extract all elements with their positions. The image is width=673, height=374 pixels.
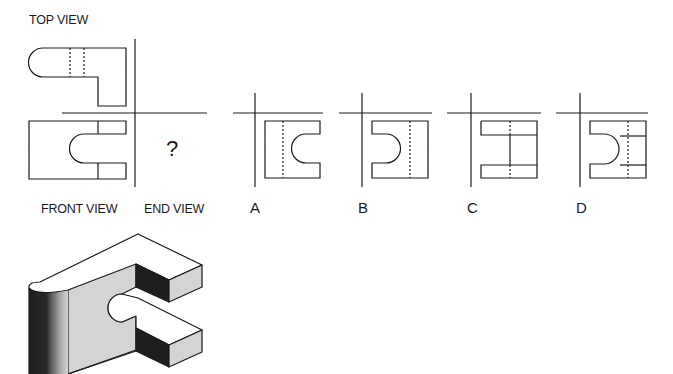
drawing-canvas — [0, 0, 673, 374]
option-c-drawing[interactable] — [447, 93, 541, 187]
option-a-drawing[interactable] — [233, 93, 323, 187]
option-b-drawing[interactable] — [339, 93, 432, 187]
option-d-drawing[interactable] — [556, 93, 648, 187]
top-view-drawing — [29, 48, 127, 106]
front-view-drawing — [29, 121, 126, 179]
isometric-part-drawing — [29, 234, 202, 374]
